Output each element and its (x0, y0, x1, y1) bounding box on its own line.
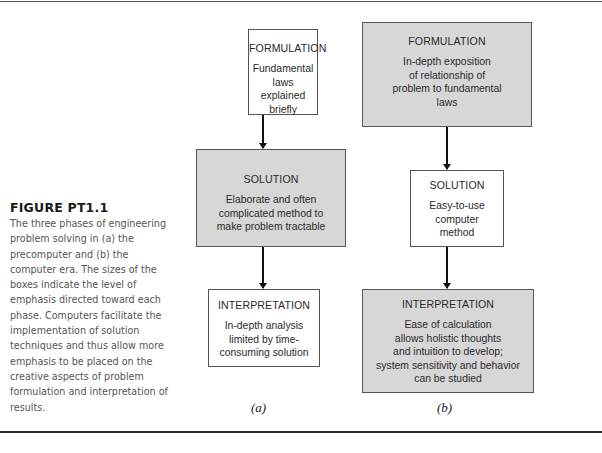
a-solution-box: SOLUTION Elaborate and often complicated… (196, 149, 346, 247)
b-interpretation-box: INTERPRETATION Ease of calculation allow… (362, 289, 534, 393)
a-formulation-text: Fundamental laws explained briefly (249, 62, 317, 116)
a-arrow-formulation-to-solution (262, 115, 264, 148)
b-arrow-solution-to-interpretation (446, 247, 448, 288)
b-formulation-text: In-depth exposition of relationship of p… (363, 55, 531, 109)
figure-title: FIGURE PT1.1 (10, 200, 170, 215)
a-solution-text: Elaborate and often complicated method t… (197, 193, 345, 233)
b-formulation-title: FORMULATION (363, 35, 531, 48)
a-interpretation-box: INTERPRETATION In-depth analysis limited… (208, 289, 320, 367)
top-rule (0, 1, 602, 2)
b-solution-title: SOLUTION (411, 179, 503, 192)
a-formulation-box: FORMULATION Fundamental laws explained b… (248, 29, 318, 115)
a-arrow-solution-to-interpretation (262, 247, 264, 288)
a-formulation-title: FORMULATION (249, 42, 317, 55)
a-solution-title: SOLUTION (197, 173, 345, 186)
b-solution-box: SOLUTION Easy-to-use computer method (410, 170, 504, 247)
figure-description: The three phases of engineering problem … (10, 216, 170, 415)
a-interpretation-text: In-depth analysis limited by time- consu… (209, 319, 319, 359)
figure-caption: FIGURE PT1.1 The three phases of enginee… (10, 200, 170, 415)
bottom-rule (0, 431, 602, 433)
b-interpretation-title: INTERPRETATION (363, 298, 533, 311)
a-interpretation-title: INTERPRETATION (209, 299, 319, 312)
panel-a-label: (a) (251, 400, 266, 416)
b-solution-text: Easy-to-use computer method (411, 199, 503, 239)
b-formulation-box: FORMULATION In-depth exposition of relat… (362, 22, 532, 127)
b-interpretation-text: Ease of calculation allows holistic thou… (363, 318, 533, 385)
b-arrow-formulation-to-solution (446, 127, 448, 169)
panel-b-label: (b) (437, 400, 452, 416)
